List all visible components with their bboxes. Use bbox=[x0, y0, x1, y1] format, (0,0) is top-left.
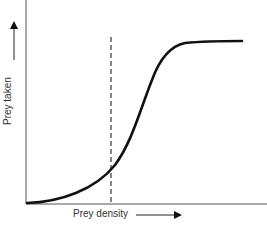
chart-svg bbox=[0, 0, 267, 226]
up-arrow-icon bbox=[10, 21, 18, 29]
right-arrow-icon bbox=[174, 211, 182, 219]
y-axis-label: Prey taken bbox=[2, 77, 13, 125]
sigmoid-curve bbox=[27, 41, 242, 203]
x-axis-label: Prey density bbox=[73, 208, 128, 219]
